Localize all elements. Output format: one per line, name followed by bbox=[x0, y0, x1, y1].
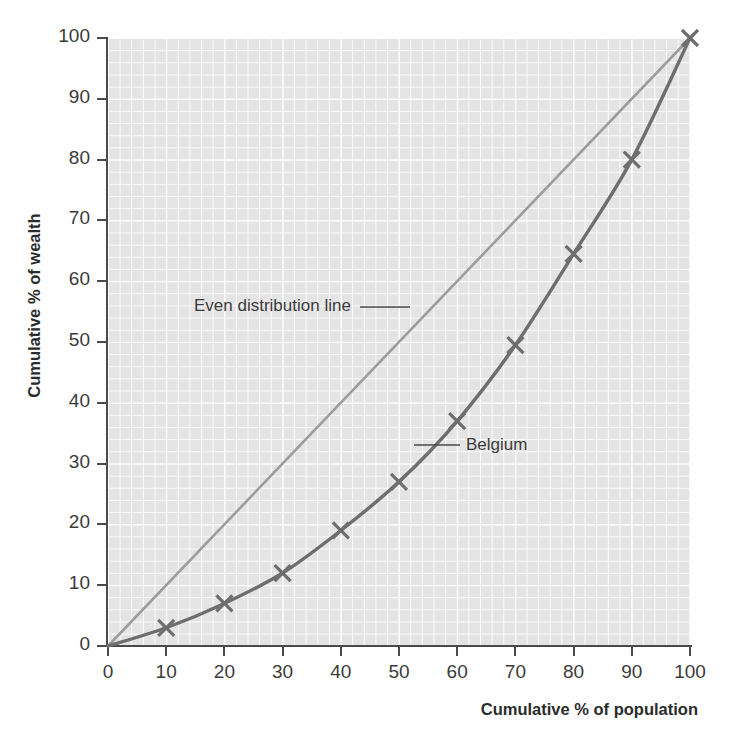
belgium-label: Belgium bbox=[466, 435, 527, 455]
lorenz-curve-figure: Cumulative % of wealth Cumulative % of p… bbox=[0, 0, 735, 735]
data-point-marker bbox=[682, 30, 698, 46]
annotation-leader-lines bbox=[360, 307, 460, 445]
data-point-marker bbox=[158, 620, 174, 636]
series-group bbox=[108, 30, 698, 646]
data-point-marker bbox=[566, 246, 582, 262]
data-layer bbox=[0, 0, 735, 735]
data-point-marker bbox=[391, 474, 407, 490]
even-distribution-line-label: Even distribution line bbox=[194, 296, 351, 316]
data-point-marker bbox=[449, 413, 465, 429]
data-point-marker bbox=[624, 152, 640, 168]
data-point-marker bbox=[216, 595, 232, 611]
data-point-marker bbox=[507, 337, 523, 353]
series-line-even-distribution-line bbox=[108, 38, 690, 646]
data-point-marker bbox=[275, 565, 291, 581]
data-point-marker bbox=[333, 522, 349, 538]
